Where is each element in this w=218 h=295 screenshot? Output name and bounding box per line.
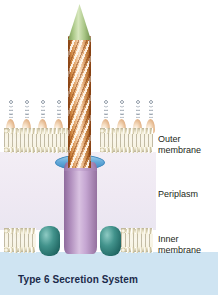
- baseplate-tube: [64, 162, 97, 254]
- figure-caption: Type 6 Secretion System: [0, 274, 156, 285]
- sheath-edge-left: [68, 36, 70, 168]
- lipid-head-row-bottom: [100, 147, 153, 153]
- label-periplasm: Periplasm: [158, 189, 198, 200]
- sheath-helical-striations: [68, 36, 91, 168]
- figure-type6-secretion-system: Outer membrane Periplasm Inner membrane …: [0, 0, 218, 295]
- sheath-edge-right: [89, 36, 91, 168]
- inner-membrane-anchor-protein: [100, 226, 121, 256]
- lipid-tails: [4, 133, 72, 147]
- lipid-head-row-bottom: [121, 247, 153, 253]
- lipid-tails: [121, 233, 153, 247]
- lipid-head-row-top: [4, 228, 36, 234]
- contractile-sheath: [68, 36, 91, 168]
- outer-membrane-bilayer-left: [4, 128, 72, 152]
- lipid-tails: [4, 233, 36, 247]
- lipid-head-row-bottom: [4, 247, 36, 253]
- lipid-head-row-top: [121, 228, 153, 234]
- lipid-head-row-top: [4, 128, 72, 134]
- lipid-head-row-bottom: [4, 147, 72, 153]
- inner-membrane-bilayer-right: [121, 228, 153, 252]
- outer-membrane-bilayer-right: [100, 128, 153, 152]
- inner-membrane-bilayer-left: [4, 228, 36, 252]
- inner-membrane-anchor-protein: [39, 226, 60, 256]
- lipid-tails: [100, 133, 153, 147]
- lipid-head-row-top: [100, 128, 153, 134]
- label-inner-membrane: Inner membrane: [158, 234, 201, 255]
- label-outer-membrane: Outer membrane: [158, 134, 201, 155]
